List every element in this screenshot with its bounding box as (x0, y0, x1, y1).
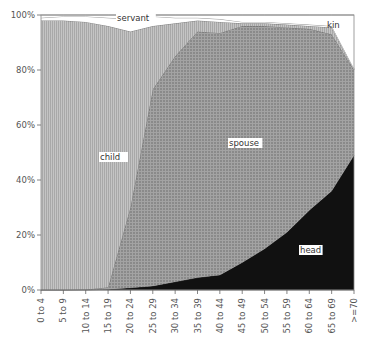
series-label-servant: servant (116, 13, 156, 23)
x-tick-label: 55 to 59 (282, 298, 292, 334)
series-label-spouse: spouse (228, 138, 262, 148)
x-tick-label: 25 to 29 (148, 298, 158, 334)
x-tick-label: 35 to 39 (193, 298, 203, 334)
label-text: spouse (229, 138, 259, 148)
label-text: kin (327, 20, 340, 30)
x-tick-label: 45 to 49 (237, 298, 247, 334)
y-tick-label: 40% (16, 175, 35, 185)
label-text: servant (117, 13, 150, 23)
x-tick-label: 0 to 4 (36, 298, 46, 323)
y-tick-label: 0% (22, 285, 36, 295)
x-tick-label: 30 to 34 (170, 298, 180, 334)
series-label-head: head (299, 245, 323, 255)
x-tick-label: 15 to 19 (103, 298, 113, 334)
y-tick-label: 80% (16, 65, 35, 75)
label-text: child (100, 152, 120, 162)
x-tick-label: 50 to 54 (260, 298, 270, 334)
y-tick-label: 100% (11, 10, 35, 20)
y-tick-label: 20% (16, 230, 35, 240)
x-tick-label: >=70 (349, 298, 359, 323)
stacked-area-chart: 0%20%40%60%80%100%0 to 45 to 910 to 1415… (0, 0, 369, 346)
x-tick-label: 65 to 69 (327, 298, 337, 334)
label-text: head (300, 245, 321, 255)
x-tick-label: 5 to 9 (58, 298, 68, 323)
y-tick-label: 60% (16, 120, 35, 130)
x-tick-label: 20 to 24 (125, 298, 135, 334)
x-tick-label: 40 to 44 (215, 298, 225, 334)
series-label-kin: kin (327, 20, 340, 30)
series-label-child: child (99, 152, 128, 162)
x-tick-label: 60 to 64 (304, 298, 314, 334)
x-tick-label: 10 to 14 (81, 298, 91, 334)
